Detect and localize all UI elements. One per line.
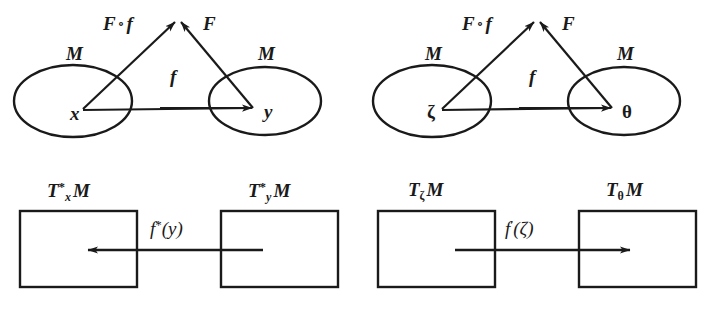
arrow-F-theta-to-apex — [540, 22, 612, 108]
composition-ring-symbol-right: ∘ — [475, 16, 486, 31]
source-point-label-x: x — [70, 104, 80, 123]
target-manifold-label-left: M — [258, 44, 274, 63]
composition-map-label-left: F∘f — [103, 14, 133, 33]
tangent-sub-theta: θ — [618, 189, 624, 203]
cotangent-T-y: T — [248, 180, 260, 201]
composition-right-symbol: f — [126, 13, 132, 34]
top-left-panel-graphics — [14, 22, 321, 137]
composition-ring-symbol: ∘ — [116, 16, 127, 31]
target-point-label-theta: θ — [622, 102, 632, 121]
bundle-map-label-left: F — [203, 14, 216, 33]
pullback-arrow-label: f*(y) — [150, 218, 183, 238]
tangent-space-label-zeta: TζM — [408, 180, 443, 202]
direct-map-label-left: f — [170, 67, 176, 86]
direct-map-label-right: f — [529, 67, 535, 86]
bottom-right-panel-graphics — [378, 211, 696, 287]
tangent-manifold-zeta: M — [425, 179, 443, 200]
cotangent-space-label-y: T*yM — [248, 180, 290, 203]
target-point-label-y: y — [264, 102, 272, 121]
figure-vector-layer — [0, 0, 716, 310]
composition-left-symbol-right: F — [462, 13, 475, 34]
source-manifold-ellipse-x — [14, 65, 132, 137]
math-figure: M M x y F∘f F f M M ζ θ F∘f F f T*xM T*y… — [0, 0, 716, 310]
tangent-space-label-theta: TθM — [606, 180, 642, 202]
arrow-composition-zeta-to-apex — [442, 22, 534, 109]
source-point-label-zeta: ζ — [427, 102, 435, 121]
cotangent-manifold-x: M — [71, 180, 89, 201]
tangent-T-theta: T — [606, 179, 618, 200]
composition-map-label-right: F∘f — [462, 14, 492, 33]
cotangent-space-label-x: T*xM — [47, 180, 90, 203]
composition-right-symbol-right: f — [485, 13, 491, 34]
tangent-T-zeta: T — [408, 179, 420, 200]
arrow-F-y-to-apex — [181, 22, 253, 108]
pushforward-argument: (ζ) — [513, 218, 533, 239]
tangent-manifold-theta: M — [624, 179, 642, 200]
pullback-argument: (y) — [162, 218, 183, 239]
arrow-composition-x-to-apex — [83, 22, 175, 109]
target-manifold-label-right: M — [617, 44, 633, 63]
composition-left-symbol: F — [103, 13, 116, 34]
tangent-sub-zeta: ζ — [420, 189, 425, 203]
bundle-map-label-right: F — [562, 14, 575, 33]
source-manifold-label-left: M — [66, 44, 82, 63]
cotangent-manifold-y: M — [271, 180, 289, 201]
cotangent-T-x: T — [47, 180, 59, 201]
pushforward-arrow-label: f′(ζ) — [505, 218, 533, 238]
top-right-panel-graphics — [373, 22, 680, 137]
source-manifold-label-right: M — [425, 44, 441, 63]
